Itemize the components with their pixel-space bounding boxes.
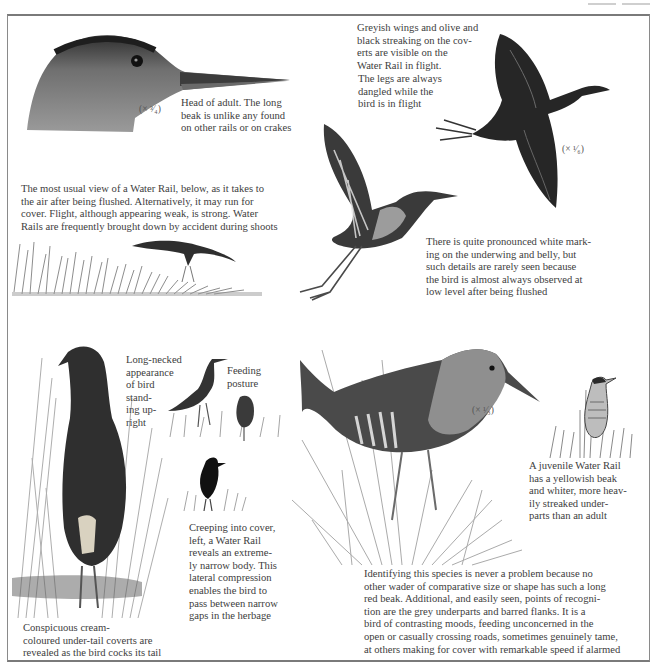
main-scale-label: (× ¹⁄₃) bbox=[472, 405, 494, 415]
juvenile-bird-illustration bbox=[540, 370, 650, 460]
main-adult-bird-illustration bbox=[282, 320, 542, 570]
feeding-posture-birds-illustration bbox=[160, 355, 290, 445]
caption-underwing: There is quite pronounced white mark- in… bbox=[426, 236, 591, 299]
caption-juvenile: A juvenile Water Rail has a yellowish be… bbox=[529, 460, 627, 523]
caption-creeping: Creeping into cover, left, a Water Rail … bbox=[189, 522, 278, 623]
caption-usual-view: The most usual view of a Water Rail, bel… bbox=[21, 183, 278, 233]
head-scale-label: (× ³⁄₄) bbox=[139, 104, 161, 114]
creeping-bird-illustration bbox=[180, 455, 250, 515]
caption-identifying: Identifying this species is never a prob… bbox=[364, 568, 620, 656]
caption-under-tail: Conspicuous cream- coloured under-tail c… bbox=[23, 622, 161, 660]
caption-flight-legs: The legs are always dangled while the bi… bbox=[358, 73, 442, 111]
caption-head: Head of adult. The long beak is unlike a… bbox=[181, 97, 291, 135]
flushed-bird-grass-illustration bbox=[12, 236, 262, 298]
page-edge-marks bbox=[588, 0, 650, 6]
flight-scale-label: (× ¹⁄₆) bbox=[562, 144, 584, 154]
